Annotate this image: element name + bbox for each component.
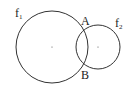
diagram-canvas: f1 f2 A B	[0, 0, 129, 91]
label-f2: f2	[115, 16, 123, 31]
label-point-b: B	[81, 68, 89, 82]
label-f1: f1	[15, 6, 23, 21]
two-circles-diagram: f1 f2 A B	[0, 0, 129, 91]
label-point-a: A	[81, 14, 90, 28]
center-f1-dot	[51, 46, 52, 47]
center-f2-dot	[97, 46, 98, 47]
